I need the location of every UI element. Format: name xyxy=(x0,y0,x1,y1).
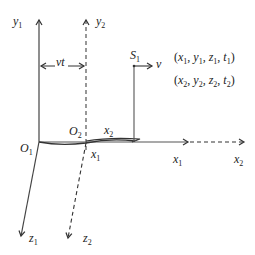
z2-axis xyxy=(68,143,86,238)
vt-label: vt xyxy=(56,56,65,68)
velocity-label: v xyxy=(156,58,161,70)
y2-label: y2 xyxy=(96,15,105,30)
s1-label: S1 xyxy=(130,49,140,64)
x2-top-label: x2 xyxy=(104,124,113,139)
event-coordinates-1: (x1, y1, z1, t1) xyxy=(174,51,235,66)
y1-label: y1 xyxy=(13,15,22,30)
o1-label: O1 xyxy=(20,142,33,157)
z1-label: z1 xyxy=(29,232,38,247)
x1-axis-label: x1 xyxy=(173,153,182,168)
x1-under-label: x1 xyxy=(91,148,100,163)
s1-point xyxy=(133,65,136,68)
diagram-canvas xyxy=(0,0,255,255)
x2-axis-label: x2 xyxy=(234,153,243,168)
o2-label: O2 xyxy=(69,125,82,140)
z2-label: z2 xyxy=(83,232,92,247)
event-coordinates-2: (x2, y2, z2, t2) xyxy=(174,74,235,89)
